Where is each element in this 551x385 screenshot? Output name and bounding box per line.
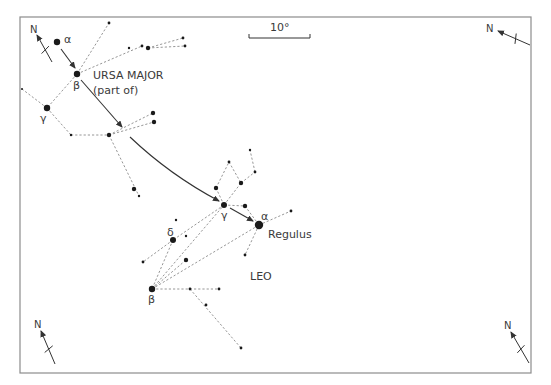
star-leo_a6 xyxy=(243,204,247,208)
star-leo_d2 xyxy=(185,235,187,237)
compass-top-right xyxy=(498,31,530,45)
compass-bottom-right xyxy=(511,332,529,363)
scale-bar-line xyxy=(249,34,310,38)
star-leo_a4 xyxy=(254,171,257,174)
compass-n-bottom-left: N xyxy=(34,320,41,330)
leo-delta-label: δ xyxy=(167,227,174,238)
constellation-line xyxy=(224,205,245,206)
constellation-line xyxy=(250,150,255,172)
compass-n-top-left: N xyxy=(30,25,37,35)
uma-gamma-label: γ xyxy=(40,113,47,124)
star-leo_b1 xyxy=(184,258,188,262)
compass-n-top-right: N xyxy=(486,24,493,34)
star-leo_d3 xyxy=(175,219,177,221)
star-uma_r2 xyxy=(141,45,144,48)
star-uma_left xyxy=(21,88,23,90)
star-chart xyxy=(0,0,551,385)
ursa-major-label: URSA MAJOR xyxy=(93,70,163,81)
star-leo_b2 xyxy=(189,288,192,291)
constellation-line xyxy=(77,23,109,74)
star-uma_m3 xyxy=(151,111,155,115)
star-leo_a2 xyxy=(239,181,243,185)
constellation-line xyxy=(241,172,255,183)
star-leo_beta xyxy=(149,286,155,292)
motion-arrow xyxy=(130,137,219,201)
constellation-line xyxy=(190,289,241,348)
star-uma_m2 xyxy=(107,133,111,137)
regulus-label: Regulus xyxy=(268,229,312,240)
star-leo_a5 xyxy=(249,149,251,151)
constellation-line xyxy=(109,135,139,196)
scale-bar-label: 10° xyxy=(270,22,290,33)
constellation-line xyxy=(22,89,47,108)
star-uma_r1 xyxy=(128,47,130,49)
star-leo_a3 xyxy=(228,161,231,164)
motion-arrow xyxy=(230,208,253,221)
star-uma_m6 xyxy=(138,195,140,197)
star-uma_m4 xyxy=(152,120,156,124)
constellation-line xyxy=(229,162,241,183)
star-uma_gamma xyxy=(44,105,50,111)
star-uma_r3 xyxy=(146,46,150,50)
motion-arrow xyxy=(61,49,75,68)
star-uma_r5 xyxy=(184,45,187,48)
north-arrow-icon xyxy=(37,35,52,62)
constellation-line xyxy=(109,122,154,135)
compass-n-bottom-right: N xyxy=(504,321,511,331)
constellation-line xyxy=(216,162,229,188)
scale-bar xyxy=(249,34,310,38)
constellation-line xyxy=(152,260,186,289)
ursa-major-subtitle: (part of) xyxy=(93,85,138,96)
constellation-line xyxy=(143,240,173,262)
star-leo_b4 xyxy=(205,304,208,307)
uma-alpha-label: α xyxy=(64,34,71,45)
leo-beta-label: β xyxy=(148,294,155,305)
star-uma_alpha xyxy=(54,39,60,45)
star-uma_m1 xyxy=(70,134,72,136)
north-arrow-icon xyxy=(498,31,530,45)
star-uma_beta xyxy=(74,71,80,77)
star-uma_m5 xyxy=(132,187,136,191)
constellation-line xyxy=(152,205,224,289)
leo-label: LEO xyxy=(250,271,272,282)
compass-bottom-left xyxy=(41,331,55,364)
north-arrow-icon xyxy=(511,332,529,363)
star-leo_a1 xyxy=(214,186,218,190)
star-uma_r4 xyxy=(182,37,185,40)
constellation-line xyxy=(245,225,259,255)
star-leo_b3 xyxy=(218,288,221,291)
star-leo_gamma xyxy=(221,202,227,208)
compass-top-left xyxy=(37,35,52,62)
star-uma_top xyxy=(108,22,111,25)
leo-alpha-label: α xyxy=(261,211,268,222)
star-leo_b5 xyxy=(240,347,243,350)
star-leo_a8 xyxy=(244,254,247,257)
uma-beta-label: β xyxy=(73,80,80,91)
constellation-line xyxy=(224,183,241,205)
north-arrow-icon xyxy=(41,331,55,364)
leo-gamma-label: γ xyxy=(221,210,228,221)
constellation-line xyxy=(47,108,71,135)
star-leo_a7 xyxy=(290,210,293,213)
star-leo_d1 xyxy=(142,261,145,264)
